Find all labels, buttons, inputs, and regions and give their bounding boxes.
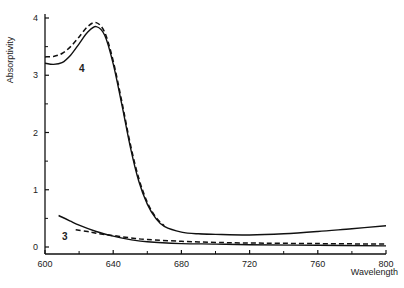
series-line bbox=[59, 216, 386, 246]
y-tick-label: 1 bbox=[33, 185, 38, 195]
x-tick-label: 720 bbox=[242, 259, 257, 269]
axes: 01234600640680720760800 bbox=[33, 13, 394, 269]
x-axis-title: Wavelength bbox=[351, 267, 398, 277]
x-tick-label: 760 bbox=[310, 259, 325, 269]
series-line bbox=[76, 230, 386, 244]
y-tick-label: 0 bbox=[33, 242, 38, 252]
curve-label: 4 bbox=[79, 63, 85, 74]
series-line bbox=[45, 22, 164, 225]
y-tick-label: 2 bbox=[33, 128, 38, 138]
labels: 43 bbox=[62, 63, 85, 242]
absorptivity-chart: 01234600640680720760800 43 Wavelength Ab… bbox=[0, 0, 404, 288]
curve-label: 3 bbox=[62, 231, 68, 242]
y-tick-label: 3 bbox=[33, 70, 38, 80]
plot-curves bbox=[45, 22, 386, 246]
y-tick-label: 4 bbox=[33, 13, 38, 23]
series-line bbox=[45, 27, 386, 235]
y-axis-title: Absorptivity bbox=[5, 36, 15, 83]
x-tick-label: 600 bbox=[37, 259, 52, 269]
x-tick-label: 680 bbox=[174, 259, 189, 269]
x-tick-label: 640 bbox=[106, 259, 121, 269]
